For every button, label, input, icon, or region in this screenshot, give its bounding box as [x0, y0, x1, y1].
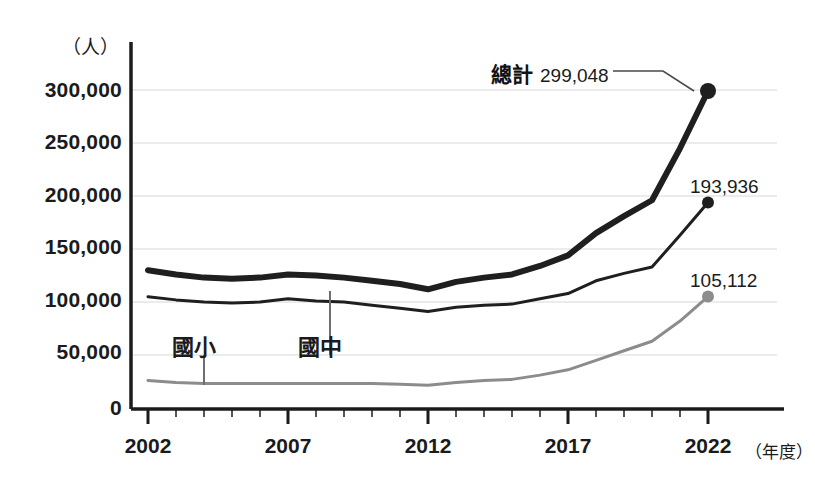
series-label-junior-high: 國中: [298, 329, 342, 361]
y-tick-label-150000: 150,000: [0, 235, 122, 259]
x-tick-label-2022: 2022: [668, 434, 748, 458]
endpoint-marker-1: [702, 196, 714, 208]
y-tick-label-300000: 300,000: [0, 78, 122, 102]
chart-plot-area: [0, 0, 815, 490]
line-chart: （人） 300,000 250,000 200,000 150,000 100,…: [0, 0, 815, 490]
y-tick-label-200000: 200,000: [0, 183, 122, 207]
series-line-0: [148, 91, 708, 289]
series-line-2: [148, 297, 708, 386]
data-series-group: [148, 91, 708, 385]
total-callout-leader-line: [613, 71, 694, 91]
x-tick-label-2007: 2007: [248, 434, 328, 458]
x-tick-label-2002: 2002: [108, 434, 188, 458]
y-tick-label-250000: 250,000: [0, 130, 122, 154]
total-callout: 總計 299,048: [491, 58, 609, 88]
endpoint-marker-0: [700, 83, 716, 99]
gridlines: [131, 90, 777, 355]
axis-lines: [131, 42, 784, 409]
value-label-junior-high: 193,936: [690, 176, 759, 198]
total-callout-value: 299,048: [540, 65, 609, 87]
value-label-elementary: 105,112: [690, 270, 757, 292]
y-tick-label-100000: 100,000: [0, 288, 122, 312]
endpoint-marker-2: [702, 291, 714, 303]
axis-ticks: [148, 409, 708, 424]
x-tick-label-2012: 2012: [388, 434, 468, 458]
annotation-leader-lines: [204, 71, 694, 385]
total-callout-name: 總計: [491, 58, 533, 88]
y-tick-label-0: 0: [0, 396, 122, 420]
y-axis-unit-label: （人）: [62, 32, 119, 59]
series-label-elementary: 國小: [172, 329, 216, 361]
x-tick-label-2017: 2017: [528, 434, 608, 458]
x-axis-unit-label: （年度）: [745, 438, 813, 463]
y-tick-label-50000: 50,000: [0, 340, 122, 364]
